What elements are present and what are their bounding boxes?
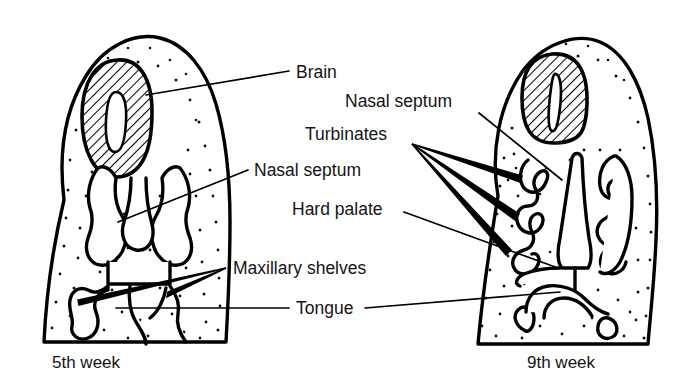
labels-group: Brain Nasal septum Turbinates Nasal sept… — [233, 62, 452, 318]
label-hard-palate: Hard palate — [292, 199, 382, 219]
right-panel-caption: 9th week — [527, 353, 596, 372]
left-panel-caption: 5th week — [52, 353, 121, 372]
left-oral-cavity — [108, 262, 170, 284]
diagram-canvas: 5th week — [0, 0, 677, 389]
label-maxillary-shelves: Maxillary shelves — [233, 258, 366, 278]
right-tongue-right-lobe — [598, 318, 617, 339]
label-nasal-septum-right: Nasal septum — [345, 91, 452, 111]
left-lateral-ventricle — [106, 92, 126, 152]
left-panel-group: 5th week — [44, 37, 230, 372]
label-tongue: Tongue — [296, 298, 353, 318]
label-nasal-septum-left: Nasal septum — [254, 160, 361, 180]
label-turbinates: Turbinates — [305, 124, 387, 144]
label-brain: Brain — [296, 62, 337, 82]
anatomical-diagram-figure: 5th week — [0, 0, 677, 389]
